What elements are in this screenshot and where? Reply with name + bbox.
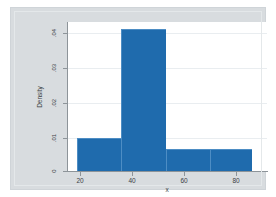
x-axis-title: x <box>165 186 168 193</box>
histogram-bar <box>77 138 121 171</box>
y-axis-line <box>67 22 68 172</box>
y-tick-label-text: .04 <box>51 29 57 37</box>
x-tick-mark-80 <box>236 172 237 176</box>
x-tick-label-40: 40 <box>128 177 135 184</box>
y-tick-label-text: 0 <box>51 169 57 172</box>
y-axis-title: Density <box>36 86 43 108</box>
x-tick-mark-40 <box>132 172 133 176</box>
y-tick-label-text: .03 <box>51 64 57 72</box>
histogram-bar <box>166 149 210 171</box>
y-tick-mark-0.03 <box>63 68 67 69</box>
gridline-y-0.02 <box>67 103 267 104</box>
plot-area <box>67 22 267 171</box>
y-tick-mark-0.01 <box>63 138 67 139</box>
histogram-bar <box>210 149 252 171</box>
y-tick-label-text: .01 <box>51 134 57 142</box>
x-tick-mark-20 <box>80 172 81 176</box>
histogram-screenshot: 0 .01 .02 .03 .04 20 40 60 80 Density x <box>0 0 276 197</box>
gridline-y-0.04 <box>67 33 267 34</box>
y-tick-label-text: .02 <box>51 99 57 107</box>
x-tick-label-20: 20 <box>76 177 83 184</box>
x-tick-label-60: 60 <box>180 177 187 184</box>
gridline-y-0.03 <box>67 68 267 69</box>
y-tick-mark-0.02 <box>63 103 67 104</box>
x-tick-label-80: 80 <box>232 177 239 184</box>
histogram-bar <box>121 29 166 171</box>
x-tick-mark-60 <box>184 172 185 176</box>
y-tick-mark-0.04 <box>63 33 67 34</box>
y-tick-mark-0 <box>63 171 67 172</box>
graph-region: 0 .01 .02 .03 .04 20 40 60 80 Density x <box>10 7 266 190</box>
x-axis-line <box>67 171 268 172</box>
